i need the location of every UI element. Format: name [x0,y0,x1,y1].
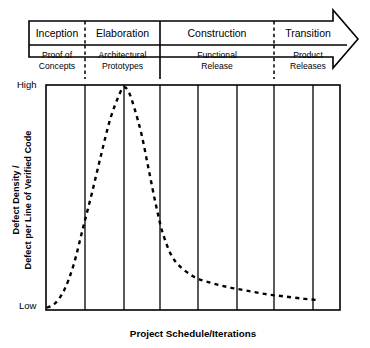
phase-sublabel-inception-line1: Proof of [42,50,73,60]
figure-canvas: Inception Elaboration Construction Trans… [0,0,370,348]
phase-sublabel-elaboration-line2: Prototypes [102,61,143,71]
y-axis-tick-low: Low [19,300,37,311]
phase-name-transition: Transition [285,27,331,39]
phase-name-elaboration: Elaboration [96,27,149,39]
phase-sublabel-construction-line1: Functional [197,50,237,60]
phase-sublabel-transition-line1: Product [293,50,323,60]
phase-name-construction: Construction [188,27,247,39]
x-axis-title: Project Schedule/Iterations [130,328,257,339]
defect-density-figure: Inception Elaboration Construction Trans… [0,0,370,348]
y-axis-title-line1: Defect Density / [11,165,21,234]
plot-area [46,85,340,310]
phase-name-inception: Inception [36,27,79,39]
y-axis-title-line2: Defect per Line of Verified Code [23,131,33,270]
phase-sublabel-elaboration-line1: Architectural [99,50,147,60]
phase-sublabel-inception-line2: Concepts [39,61,75,71]
y-axis-tick-high: High [17,79,37,90]
phase-banner: Inception Elaboration Construction Trans… [29,10,358,79]
phase-sublabel-transition-line2: Releases [290,61,326,71]
phase-sublabel-construction-line2: Release [201,61,233,71]
